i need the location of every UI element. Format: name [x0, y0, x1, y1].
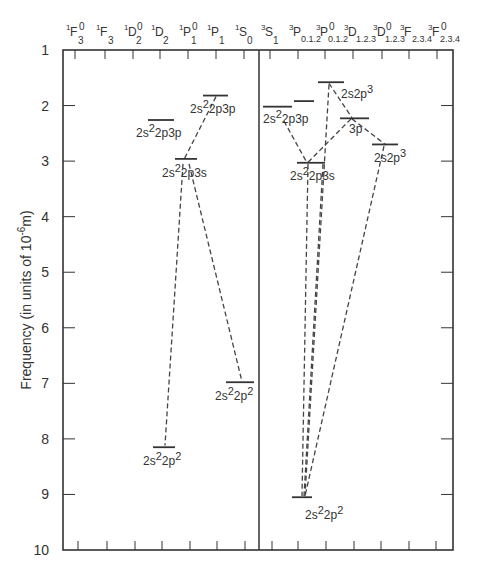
energy-level: 2s22p3p	[190, 96, 236, 116]
y-tick-label: 3	[41, 153, 49, 169]
energy-level: 2s22p3s	[162, 159, 207, 180]
term-parity: 0	[386, 21, 392, 32]
term-letter: P	[183, 25, 191, 39]
energy-level: 2s22p3p	[263, 107, 309, 126]
term-j: 3	[108, 35, 114, 46]
energy-level: 2s22p2	[143, 447, 181, 468]
level-label: 2s22p3p	[263, 108, 309, 126]
level-label: 2s22p2	[143, 450, 181, 468]
term-j: 2.3.4	[440, 34, 460, 44]
term-letter: P	[211, 25, 219, 39]
term-j: 2	[136, 35, 142, 46]
term-letter: S	[265, 25, 273, 39]
term-parity: 0	[192, 21, 198, 32]
level-label: 2s2p3	[341, 83, 373, 101]
transition-line	[189, 164, 242, 382]
term-j: 2	[163, 35, 169, 46]
level-label: 2s22p3p	[136, 122, 182, 140]
energy-level: 2s22p2	[215, 382, 254, 403]
term-letter: S	[239, 25, 247, 39]
transition-line	[305, 84, 329, 496]
y-tick-label: 8	[41, 431, 49, 447]
term-letter: F	[432, 25, 439, 39]
term-j: 2.3.4	[412, 34, 432, 44]
y-tick-label: 1	[41, 42, 49, 58]
term-letter: F	[70, 25, 77, 39]
y-axis-title: Frequency (in units of 10-6m)	[16, 210, 34, 389]
term-label: 1D2	[151, 23, 169, 46]
term-label: 3S1	[261, 23, 279, 46]
energy-levels: 2s22p3p2s22p3p2s22p3s2s22p22s22p22s22p3p…	[136, 82, 406, 522]
level-label: 2s22p2	[215, 385, 253, 403]
term-label: 1D20	[124, 21, 143, 46]
y-tick-label: 4	[41, 209, 49, 225]
term-letter: F	[404, 25, 411, 39]
term-parity: 0	[137, 21, 143, 32]
term-letter: P	[320, 25, 328, 39]
term-label: 3D1.2.3	[344, 23, 376, 44]
term-column-labels: 1F301F31D201D21P101P11S03S13P0.1.23P0.1.…	[66, 21, 460, 46]
y-tick-label: 10	[33, 542, 49, 558]
term-label: 1P10	[179, 21, 198, 46]
term-label: 1S0	[235, 23, 253, 46]
term-j: 0.1.2	[328, 34, 348, 44]
term-parity: 0	[441, 21, 447, 32]
transition-line	[307, 119, 351, 163]
energy-level: 2s22p2	[292, 497, 343, 522]
transition-lines	[165, 83, 386, 496]
term-j: 1	[191, 35, 197, 46]
term-letter: P	[293, 25, 301, 39]
energy-level: 2s22p3s	[290, 163, 335, 183]
level-label: 3p	[349, 122, 363, 136]
energy-level: 2s2p3	[318, 82, 373, 101]
y-axis-label: Frequency (in units of 10-6m)	[16, 210, 34, 389]
term-label: 1F30	[66, 21, 85, 46]
term-j: 1	[273, 35, 279, 46]
term-label: 1P1	[207, 23, 225, 46]
y-tick-label: 6	[41, 320, 49, 336]
y-tick-label: 9	[41, 486, 49, 502]
y-axis: 12345678910	[33, 42, 453, 558]
term-parity: 0	[329, 21, 335, 32]
y-tick-label: 5	[41, 264, 49, 280]
term-j: 1.2.3	[385, 34, 405, 44]
term-j: 3	[78, 35, 84, 46]
term-j: 1	[219, 35, 225, 46]
energy-level: 2s2p3	[372, 144, 406, 165]
term-j: 1.2.3	[356, 34, 376, 44]
y-tick-label: 2	[41, 98, 49, 114]
term-label: 1F3	[96, 23, 114, 46]
transition-line	[305, 146, 384, 496]
term-label: 3F2.3.40	[428, 21, 460, 44]
plot-border	[63, 50, 453, 550]
energy-level: 2s22p3p	[136, 120, 182, 140]
level-label: 2s22p2	[305, 504, 343, 522]
level-label: 2s22p3p	[190, 98, 236, 116]
energy-level-diagram: 12345678910 Frequency (in units of 10-6m…	[0, 0, 486, 574]
term-j: 0	[247, 35, 253, 46]
term-parity: 0	[79, 21, 85, 32]
level-label: 2s22p3s	[162, 162, 207, 180]
level-label: 2s2p3	[374, 147, 406, 165]
level-label: 2s22p3s	[290, 165, 335, 183]
plot-frame	[63, 50, 453, 550]
transition-line	[284, 121, 307, 163]
term-letter: F	[100, 25, 107, 39]
term-j: 0.1.2	[301, 34, 321, 44]
y-tick-label: 7	[41, 375, 49, 391]
transition-line	[165, 164, 183, 446]
